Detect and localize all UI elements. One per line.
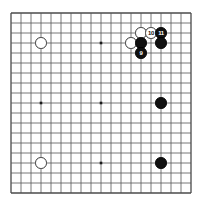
- star-point: [100, 102, 103, 105]
- star-point: [100, 162, 103, 165]
- star-point: [100, 42, 103, 45]
- stone-move-number: 9: [140, 50, 143, 56]
- go-board-diagram: 91011: [0, 0, 206, 212]
- star-point: [40, 102, 43, 105]
- stone-black: [155, 157, 167, 169]
- stone-black: [155, 97, 167, 109]
- stone-white: [35, 37, 47, 49]
- stone-black: [155, 37, 167, 49]
- stone-black-9: 9: [135, 47, 147, 59]
- stone-move-number: 10: [148, 30, 154, 36]
- stone-white: [35, 157, 47, 169]
- stone-move-number: 11: [158, 30, 164, 36]
- goban: 91011: [10, 12, 192, 195]
